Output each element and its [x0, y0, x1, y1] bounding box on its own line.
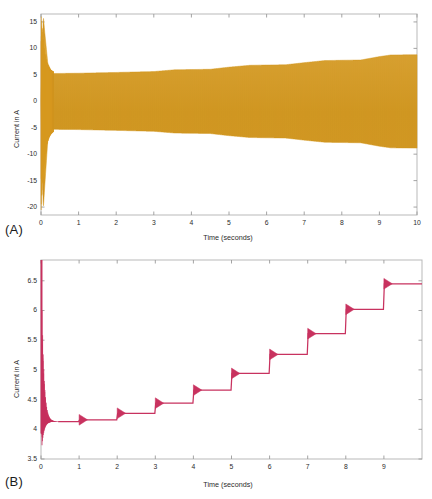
y-tick-label: 3.5: [5, 455, 37, 462]
x-tick-label: 1: [64, 219, 94, 226]
plot-a-svg: [0, 0, 432, 248]
step-transients-b: [79, 278, 392, 425]
staircase-trace-b: [58, 284, 422, 422]
startup-transient-b: [41, 260, 58, 445]
startup-transient-a: [41, 17, 53, 210]
y-tick-label: -15: [5, 177, 37, 184]
y-tick-label: 15: [5, 18, 37, 25]
x-tick-label: 4: [178, 463, 208, 470]
y-tick-label: -10: [5, 150, 37, 157]
chart-panel-b: Current in A Time (seconds) 01234567896.…: [0, 248, 432, 499]
x-tick-label: 0: [26, 219, 56, 226]
x-axis-title-a: Time (seconds): [128, 233, 328, 242]
y-tick-label: 6.5: [5, 277, 37, 284]
x-tick-label: 5: [214, 219, 244, 226]
x-axis-title-b: Time (seconds): [128, 480, 328, 489]
y-tick-label: 0: [5, 97, 37, 104]
panel-letter-b: (B): [5, 474, 23, 489]
x-tick-label: 6: [252, 219, 282, 226]
x-tick-label: 3: [140, 463, 170, 470]
y-tick-label: 4: [5, 425, 37, 432]
x-tick-label: 7: [293, 463, 323, 470]
plot-b-svg: [0, 248, 432, 499]
x-tick-label: 6: [255, 463, 285, 470]
y-tick-label: 6: [5, 306, 37, 313]
panel-letter-a: (A): [5, 222, 23, 237]
y-tick-label: 5.5: [5, 336, 37, 343]
x-tick-label: 8: [331, 463, 361, 470]
x-tick-label: 9: [364, 219, 394, 226]
y-tick-label: 5: [5, 366, 37, 373]
chart-panel-a: Current in A Time (seconds) (A) 01234567…: [0, 0, 432, 248]
y-tick-label: -20: [5, 203, 37, 210]
x-tick-label: 1: [64, 463, 94, 470]
x-tick-label: 3: [139, 219, 169, 226]
x-tick-label: 2: [102, 463, 132, 470]
x-tick-label: 5: [217, 463, 247, 470]
x-tick-label: 9: [369, 463, 399, 470]
x-tick-label: 10: [402, 219, 432, 226]
y-tick-label: 5: [5, 71, 37, 78]
y-tick-label: 4.5: [5, 396, 37, 403]
x-tick-label: 8: [327, 219, 357, 226]
figure-container: Current in A Time (seconds) (A) 01234567…: [0, 0, 432, 499]
x-tick-label: 0: [26, 463, 56, 470]
y-tick-label: 10: [5, 44, 37, 51]
x-tick-label: 7: [289, 219, 319, 226]
y-tick-label: -5: [5, 124, 37, 131]
x-tick-label: 2: [101, 219, 131, 226]
x-tick-label: 4: [176, 219, 206, 226]
